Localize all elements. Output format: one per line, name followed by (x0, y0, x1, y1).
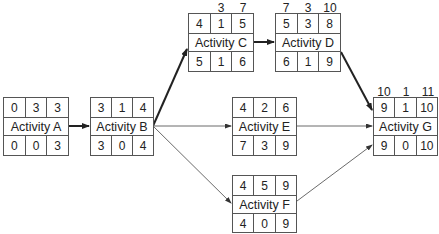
node-g-above-values: 10111 (373, 85, 439, 97)
node-activity-a: 033 Activity A 003 (3, 97, 69, 156)
late-finish: 3 (46, 136, 68, 155)
early-start: 4 (233, 176, 253, 195)
slack: 0 (253, 214, 274, 233)
late-start: 6 (276, 52, 297, 71)
early-finish: 6 (275, 98, 296, 117)
late-start: 7 (233, 136, 253, 155)
early-finish: 3 (46, 98, 68, 117)
late-start: 3 (91, 136, 111, 155)
late-finish: 4 (132, 136, 153, 155)
edge-d-g (341, 52, 372, 110)
early-start: 4 (233, 98, 253, 117)
node-activity-b: 314 Activity B 304 (90, 97, 154, 156)
activity-name: Activity E (233, 118, 296, 135)
late-start: 9 (374, 136, 394, 155)
node-activity-d: 538 Activity D 619 (275, 13, 341, 72)
duration: 5 (253, 176, 274, 195)
above-value: 1 (395, 85, 417, 97)
node-activity-c: 415 Activity C 516 (188, 13, 254, 72)
early-finish: 10 (416, 98, 437, 117)
late-start: 5 (189, 52, 210, 71)
early-start: 4 (189, 14, 210, 33)
edge-b-f (153, 126, 231, 203)
late-finish: 6 (231, 52, 253, 71)
node-c-above-values: 37 (188, 1, 254, 13)
late-finish: 9 (275, 214, 296, 233)
duration: 1 (111, 98, 132, 117)
early-start: 0 (4, 98, 25, 117)
late-start: 0 (4, 136, 25, 155)
node-activity-g: 9110 Activity G 9010 (373, 97, 438, 156)
activity-name: Activity C (189, 34, 253, 51)
above-value: 7 (275, 1, 297, 13)
duration: 3 (297, 14, 319, 33)
above-value: 11 (417, 85, 439, 97)
early-finish: 4 (132, 98, 153, 117)
activity-name: Activity A (4, 118, 68, 135)
early-finish: 5 (231, 14, 253, 33)
early-start: 3 (91, 98, 111, 117)
slack: 3 (253, 136, 274, 155)
early-finish: 9 (275, 176, 296, 195)
above-value: 7 (232, 1, 254, 13)
edge-f-g (297, 145, 372, 201)
late-finish: 10 (416, 136, 437, 155)
late-finish: 9 (275, 136, 296, 155)
slack: 0 (394, 136, 415, 155)
node-d-above-values: 7310 (275, 1, 341, 13)
duration: 1 (210, 14, 232, 33)
above-value (188, 1, 210, 13)
edge-b-c (153, 49, 187, 126)
node-activity-e: 426 Activity E 739 (232, 97, 297, 156)
early-start: 9 (374, 98, 394, 117)
late-start: 4 (233, 214, 253, 233)
activity-name: Activity D (276, 34, 340, 51)
duration: 2 (253, 98, 274, 117)
early-finish: 8 (318, 14, 340, 33)
slack: 0 (111, 136, 132, 155)
slack: 1 (297, 52, 319, 71)
slack: 1 (210, 52, 232, 71)
duration: 3 (25, 98, 47, 117)
activity-name: Activity B (91, 118, 153, 135)
node-activity-f: 459 Activity F 409 (232, 175, 297, 233)
above-value: 10 (373, 85, 395, 97)
slack: 0 (25, 136, 47, 155)
above-value: 10 (319, 1, 341, 13)
late-finish: 9 (318, 52, 340, 71)
activity-name: Activity F (233, 196, 296, 213)
duration: 1 (394, 98, 415, 117)
above-value: 3 (297, 1, 319, 13)
above-value: 3 (210, 1, 232, 13)
activity-name: Activity G (374, 118, 437, 135)
early-start: 5 (276, 14, 297, 33)
